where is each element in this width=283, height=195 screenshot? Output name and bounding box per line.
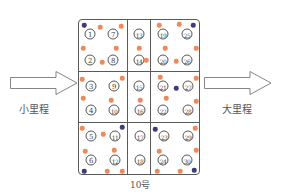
orange-dot-icon <box>120 76 125 81</box>
orange-dot-icon <box>105 169 110 174</box>
navy-dot-icon <box>174 86 179 91</box>
orange-dot-icon <box>193 126 198 131</box>
orange-dot-icon <box>120 169 125 174</box>
orange-dot-icon <box>194 148 199 153</box>
orange-dot-icon <box>81 46 86 51</box>
cell-number-10: 10 <box>109 105 120 116</box>
orange-dot-icon <box>163 46 168 51</box>
navy-dot-icon <box>191 23 196 28</box>
orange-dot-icon <box>80 77 85 82</box>
divider-vertical-left <box>127 19 128 175</box>
cell-number-28: 28 <box>183 105 194 116</box>
cell-number-1: 1 <box>85 29 96 40</box>
orange-dot-icon <box>80 126 85 131</box>
cell-number-23: 23 <box>159 131 170 142</box>
cell-number-8: 8 <box>108 55 119 66</box>
right-arrow-icon <box>204 71 272 95</box>
orange-dot-icon <box>83 149 88 154</box>
segment-diagram: 小里程 大里程 17283941051161213141516171819252… <box>0 0 283 195</box>
cell-number-21: 21 <box>158 81 169 92</box>
cell-number-12: 12 <box>110 155 121 166</box>
orange-dot-icon <box>157 23 162 28</box>
cell-number-26: 26 <box>182 55 193 66</box>
cell-number-17: 17 <box>135 131 146 142</box>
orange-dot-icon <box>194 99 199 104</box>
orange-dot-icon <box>101 132 106 137</box>
orange-dot-icon <box>174 59 179 64</box>
orange-dot-icon <box>194 46 199 51</box>
orange-dot-icon <box>194 76 199 81</box>
orange-dot-icon <box>109 98 114 103</box>
navy-dot-icon <box>192 168 197 173</box>
cell-number-9: 9 <box>109 81 120 92</box>
cell-number-11: 11 <box>110 131 121 142</box>
cell-number-24: 24 <box>158 155 169 166</box>
cell-number-7: 7 <box>108 29 119 40</box>
cell-number-30: 30 <box>182 155 193 166</box>
orange-dot-icon <box>100 60 105 65</box>
cell-number-2: 2 <box>85 55 96 66</box>
orange-dot-icon <box>164 96 169 101</box>
navy-dot-icon <box>82 169 87 174</box>
cell-number-25: 25 <box>182 29 193 40</box>
orange-dot-icon <box>119 24 124 29</box>
divider-horizontal-top <box>78 71 200 72</box>
orange-dot-icon <box>114 46 119 51</box>
cell-number-29: 29 <box>183 131 194 142</box>
cell-number-18: 18 <box>135 155 146 166</box>
cell-number-15: 15 <box>134 81 145 92</box>
orange-dot-icon <box>81 96 86 101</box>
segment-number-label: 10号 <box>130 178 150 191</box>
orange-dot-icon <box>157 149 162 154</box>
small-mileage-label: 小里程 <box>19 101 49 116</box>
large-mileage-label: 大里程 <box>222 101 252 116</box>
cell-number-16: 16 <box>135 105 146 116</box>
cell-number-19: 19 <box>158 29 169 40</box>
orange-dot-icon <box>144 58 149 63</box>
cell-number-22: 22 <box>158 105 169 116</box>
orange-dot-icon <box>112 148 117 153</box>
orange-dot-icon <box>98 25 103 30</box>
orange-dot-icon <box>177 22 182 27</box>
cell-number-13: 13 <box>134 29 145 40</box>
orange-dot-icon <box>178 169 183 174</box>
navy-dot-icon <box>153 127 158 132</box>
orange-dot-icon <box>137 46 142 51</box>
cell-number-20: 20 <box>158 55 169 66</box>
navy-dot-icon <box>120 125 125 130</box>
cell-number-4: 4 <box>86 105 97 116</box>
cell-number-3: 3 <box>86 81 97 92</box>
orange-dot-icon <box>158 75 163 80</box>
cell-number-5: 5 <box>86 131 97 142</box>
orange-dot-icon <box>138 98 143 103</box>
left-arrow-icon <box>10 71 78 95</box>
divider-vertical-right <box>150 19 151 175</box>
orange-dot-icon <box>155 169 160 174</box>
cell-number-27: 27 <box>183 81 194 92</box>
navy-dot-icon <box>82 23 87 28</box>
divider-horizontal-bottom <box>78 122 200 123</box>
cell-number-6: 6 <box>86 155 97 166</box>
